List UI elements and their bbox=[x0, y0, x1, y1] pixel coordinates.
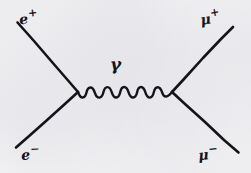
photon-propagator-wavy-line bbox=[78, 87, 172, 98]
particle-label-mu-plus-charge: + bbox=[209, 5, 220, 19]
feynman-diagram-canvas: e+ e− μ+ μ− γ bbox=[0, 0, 251, 173]
particle-label-e-plus: e+ bbox=[18, 7, 39, 27]
particle-label-mu-minus: μ− bbox=[197, 143, 219, 163]
particle-label-mu-minus-base: μ bbox=[197, 146, 209, 163]
fermion-line-e-minus bbox=[16, 92, 78, 148]
particle-label-photon: γ bbox=[109, 56, 122, 74]
particle-label-mu-minus-charge: − bbox=[208, 142, 219, 156]
particle-label-mu-plus: μ+ bbox=[199, 6, 222, 28]
particle-label-e-plus-charge: + bbox=[27, 6, 38, 20]
particle-label-e-minus: e− bbox=[20, 143, 40, 163]
particle-label-e-minus-charge: − bbox=[30, 142, 40, 156]
fermion-line-e-plus bbox=[18, 23, 79, 93]
fermion-line-mu-plus bbox=[172, 27, 233, 92]
